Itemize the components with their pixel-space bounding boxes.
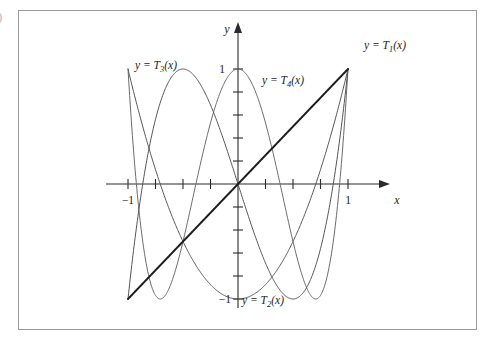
y-ticklabel-one: 1 [219,63,225,75]
figure-number-tag: ) [0,6,12,28]
curve-label-T4-prefix: y = T [261,74,289,87]
x-ticklabel-minus1: −1 [122,194,134,206]
curve-label-T2-prefix: y = T [241,294,269,307]
figure-root: ) [0,0,494,344]
curve-label-T2: y = T2(x) [241,294,284,309]
curve-label-T2-suffix: (x) [271,294,284,307]
curve-label-T3: y = T3(x) [134,59,177,74]
curve-label-T4: y = T4(x) [261,74,304,89]
curve-label-T4-suffix: (x) [291,74,304,87]
curve-label-T3-prefix: y = T [134,59,162,72]
curve-label-T1-prefix: y = T [363,39,391,52]
x-axis-label: x [393,193,400,207]
curve-label-T1: y = T1(x) [363,39,406,54]
x-ticklabel-one: 1 [345,194,351,206]
curve-label-T1-suffix: (x) [393,39,406,52]
plot-canvas: −1 1 1 −1 x y y = T1(x) y = T4(x) y = T3… [19,11,476,329]
y-ticklabel-minus1: −1 [219,293,231,305]
y-axis-label: y [223,22,230,36]
figure-frame: −1 1 1 −1 x y y = T1(x) y = T4(x) y = T3… [18,10,477,330]
y-axis-arrowhead [234,22,242,33]
x-axis-arrowhead [379,180,390,188]
curve-label-T3-suffix: (x) [164,59,177,72]
